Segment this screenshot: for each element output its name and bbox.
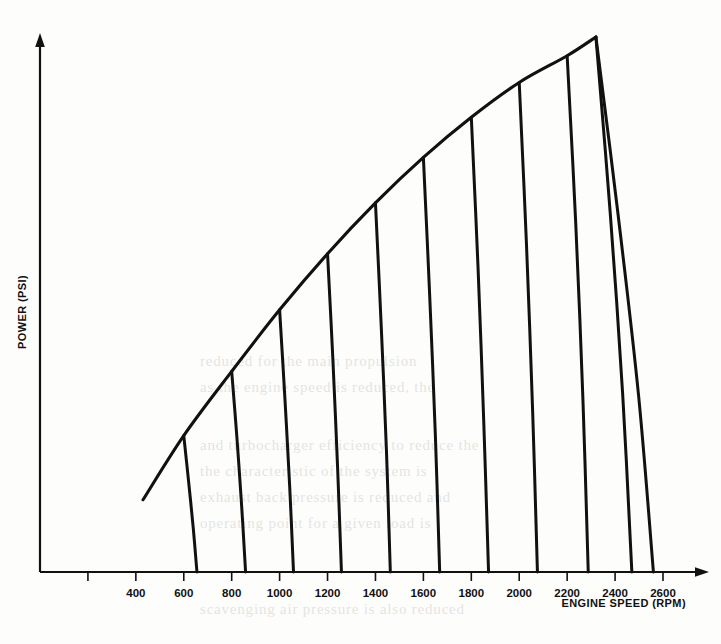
x-axis-tick-label: 400 [126, 587, 145, 599]
x-axis-tick-label: 1200 [315, 587, 341, 599]
x-axis-arrowhead [695, 567, 709, 577]
axes: 4006008001000120014001600180020002200240… [35, 33, 709, 599]
rack-position-curve [232, 371, 246, 572]
rack-position-curve [471, 117, 488, 572]
rack-position-curve [567, 56, 588, 572]
engine-power-chart: 4006008001000120014001600180020002200240… [0, 0, 721, 644]
chart-series-group [143, 37, 653, 572]
x-axis-tick-label: 1800 [459, 587, 485, 599]
rack-position-curve [375, 203, 390, 572]
x-axis-tick-label: 1400 [363, 587, 389, 599]
y-axis-title: POWER (PSI) [16, 275, 28, 349]
x-axis-title: ENGINE SPEED (RPM) [561, 597, 686, 609]
x-axis-tick-label: 600 [174, 587, 193, 599]
x-axis-tick-label: 800 [222, 587, 241, 599]
rack-position-curve [328, 254, 342, 572]
x-axis-tick-label: 2000 [506, 587, 532, 599]
rack-position-curve [423, 157, 439, 572]
x-axis-tick-label: 1600 [411, 587, 437, 599]
x-axis-ticks [88, 572, 663, 581]
x-axis-tick-label: 1000 [267, 587, 293, 599]
y-axis-arrowhead [35, 33, 45, 47]
rack-position-curve [519, 82, 537, 572]
rack-position-curve [184, 436, 197, 572]
rack-position-curve [596, 37, 632, 572]
rack-position-curve [280, 310, 294, 572]
chart-canvas: 4006008001000120014001600180020002200240… [0, 0, 721, 644]
rack-position-curve [596, 37, 654, 572]
